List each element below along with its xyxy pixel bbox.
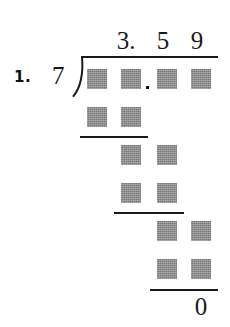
- dividend-cell-4[interactable]: [191, 69, 211, 89]
- subtraction-rule-3: [150, 289, 218, 291]
- divisor-value: 7: [52, 63, 65, 88]
- quotient-digit-3: 9: [186, 28, 208, 53]
- remainder-row-1-cell-2[interactable]: [157, 145, 177, 165]
- quotient-digit-2: 5: [152, 28, 174, 53]
- division-vinculum: [81, 56, 218, 58]
- partial-product-row-1-cell-1[interactable]: [87, 107, 107, 127]
- remainder-row-1-cell-1[interactable]: [121, 145, 141, 165]
- quotient-digit-1: 3.: [111, 28, 141, 53]
- dividend-cell-1[interactable]: [87, 69, 107, 89]
- problem-number-label: 1.: [14, 70, 31, 85]
- partial-product-row-3-cell-2[interactable]: [191, 259, 211, 279]
- subtraction-rule-1: [80, 136, 148, 138]
- division-bracket-icon: [72, 55, 86, 97]
- subtraction-rule-2: [114, 212, 184, 214]
- remainder-row-2-cell-1[interactable]: [157, 221, 177, 241]
- final-remainder-value: 0: [190, 294, 212, 319]
- dividend-cell-3[interactable]: [157, 69, 177, 89]
- partial-product-row-2-cell-1[interactable]: [121, 183, 141, 203]
- partial-product-row-3-cell-1[interactable]: [157, 259, 177, 279]
- partial-product-row-1-cell-2[interactable]: [121, 107, 141, 127]
- partial-product-row-2-cell-2[interactable]: [157, 183, 177, 203]
- long-division-problem: 1. 7 3. 5 9 0: [0, 0, 230, 327]
- dividend-cell-2[interactable]: [121, 69, 141, 89]
- remainder-row-2-cell-2[interactable]: [191, 221, 211, 241]
- dividend-decimal-point: [146, 86, 149, 89]
